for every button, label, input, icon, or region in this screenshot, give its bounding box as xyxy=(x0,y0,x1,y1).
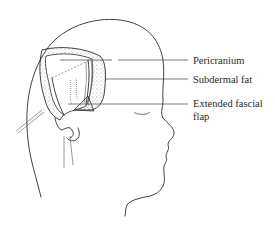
label-extended-fascial-flap-line2: flap xyxy=(193,110,209,123)
label-extended-fascial-flap: Extended fascial xyxy=(193,97,263,110)
head-illustration xyxy=(0,0,275,230)
instrument xyxy=(16,110,42,131)
pedicle xyxy=(55,118,73,138)
label-pericranium: Pericranium xyxy=(193,54,244,67)
anatomical-diagram: Pericranium Subdermal fat Extended fasci… xyxy=(0,0,275,230)
eye xyxy=(134,112,150,114)
label-subdermal-fat: Subdermal fat xyxy=(193,73,252,86)
instrument xyxy=(18,112,44,133)
